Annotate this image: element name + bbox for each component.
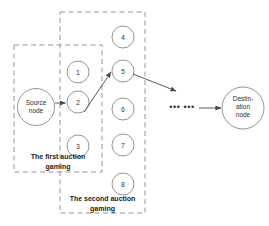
group-caption-first-line1: The first auction	[14, 152, 102, 162]
source-node-label: Source node	[11, 99, 61, 115]
destination-node-label-line3: node	[225, 111, 261, 119]
source-node-label-line2: node	[11, 107, 61, 115]
edge-node-2-to-node-5	[84, 72, 111, 112]
node-label-5: 5	[113, 68, 133, 75]
group-caption-second-line1: The second auction	[58, 194, 147, 204]
node-label-1: 1	[68, 69, 88, 76]
node-label-3: 3	[68, 143, 88, 150]
node-label-8: 8	[113, 181, 133, 188]
node-label-2: 2	[68, 99, 88, 106]
node-label-6: 6	[113, 106, 133, 113]
destination-node-label: Destin- ation node	[225, 95, 261, 119]
destination-node-label-line1: Destin-	[225, 95, 261, 103]
edge-node-5-to-ellipsis	[133, 74, 176, 91]
group-caption-first-line2: gaming	[14, 162, 102, 172]
destination-node-label-line2: ation	[225, 103, 261, 111]
group-caption-first-auction-gaming: The first auction gaming	[14, 152, 102, 171]
group-caption-second-line2: gaming	[58, 204, 147, 214]
group-caption-second-auction-gaming: The second auction gaming	[58, 194, 147, 213]
node-label-7: 7	[113, 142, 133, 149]
diagram-canvas: Source node 1 2 3 4 5 6 7 8 ••• ••• Dest…	[0, 0, 269, 226]
node-label-4: 4	[113, 34, 133, 41]
source-node-label-line1: Source	[11, 99, 61, 107]
ellipsis-indicator: ••• •••	[165, 103, 199, 112]
